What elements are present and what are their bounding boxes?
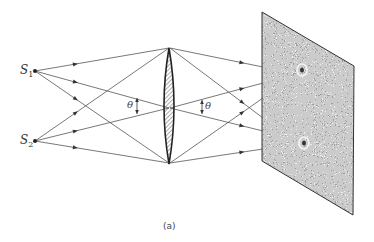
arrowhead-icon [73, 80, 78, 84]
arrowhead-icon [239, 111, 244, 116]
ray-segment [170, 108, 263, 131]
s1-subscript: 1 [28, 70, 33, 79]
diagram-canvas [0, 0, 374, 242]
ray-segment [35, 108, 169, 141]
arrowhead-icon [73, 96, 78, 100]
ray-segment [170, 98, 263, 163]
s2-subscript: 2 [28, 140, 33, 149]
ray-segment [35, 71, 169, 163]
source-label-s1: S1 [20, 64, 33, 79]
s2-letter: S [20, 133, 28, 147]
ray-segment [35, 48, 169, 141]
theta-label-left: θ [127, 100, 133, 110]
figure-caption: (a) [163, 222, 176, 231]
ray-segment [35, 48, 169, 71]
source-label-s2: S2 [20, 134, 33, 149]
ray-segment [170, 48, 263, 67]
ray-segment [35, 141, 169, 163]
source-point-s2 [33, 139, 37, 143]
lens [164, 48, 174, 164]
arrowhead-icon [239, 60, 244, 64]
arrowhead-icon [239, 151, 244, 155]
ray-segment [170, 83, 263, 108]
arrowhead-icon [73, 111, 78, 115]
theta-label-right: θ [205, 101, 211, 111]
arrowhead-icon [73, 145, 78, 149]
ray-segment [35, 71, 169, 108]
light-rays [35, 48, 263, 163]
angle-arrow-1 [135, 98, 139, 114]
arrowhead-icon [73, 63, 78, 67]
point-sources [33, 69, 37, 143]
arrowhead-icon [239, 99, 244, 104]
optics-diagram: S1 S2 θ θ (a) [0, 0, 374, 242]
arrowhead-icon [239, 87, 244, 91]
s1-letter: S [20, 63, 28, 77]
source-point-s1 [33, 69, 37, 73]
ray-segment [170, 149, 263, 163]
speckle-screen [255, 5, 365, 220]
angle-arrow-2 [200, 100, 204, 114]
